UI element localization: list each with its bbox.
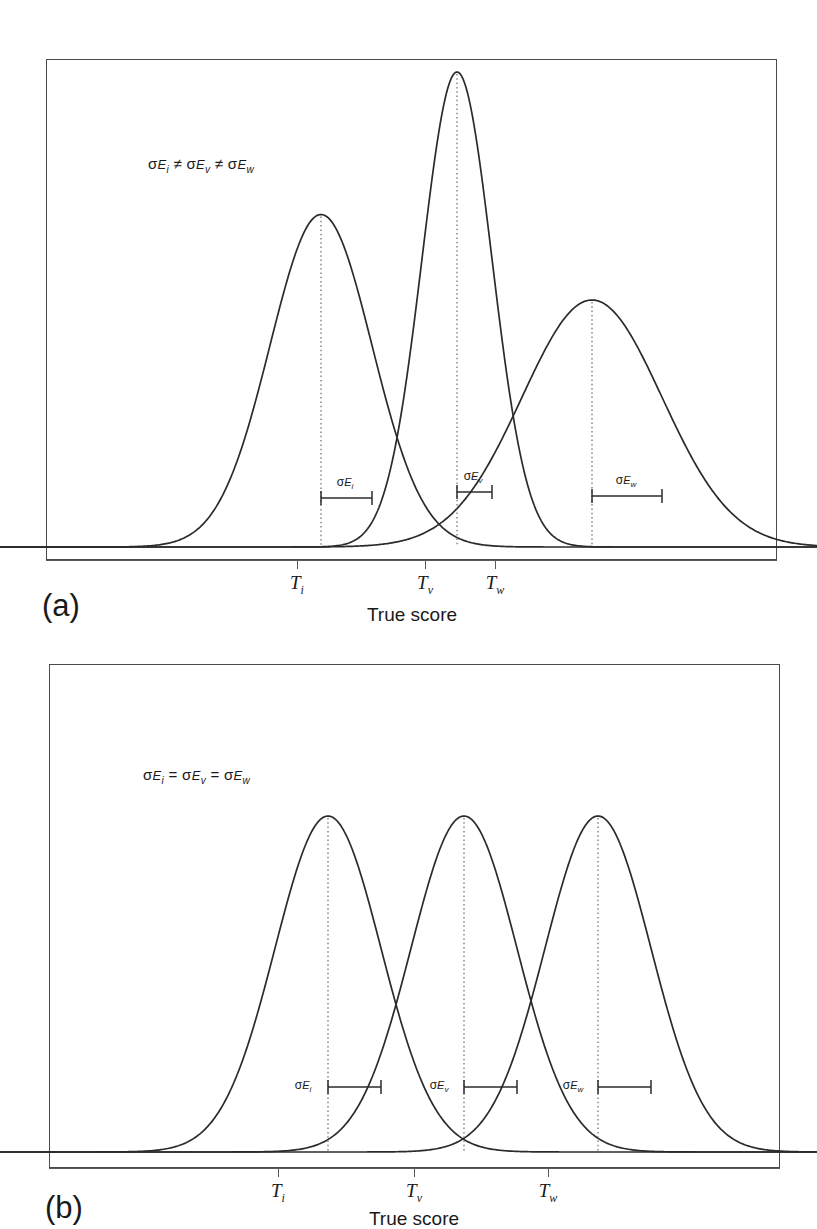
panel-a-sem-label-w: σEw [616,473,637,489]
panel-b-tick-i [278,1168,279,1177]
panel-b-tick-v [414,1168,415,1177]
panel-b-annotation: σEi = σEv = σEw [143,766,250,786]
panel-a-annotation: σEi ≠ σEv ≠ σEw [148,155,254,175]
panel-b-tick-label-w: Tw [539,1180,558,1206]
distribution-curve-w [0,300,817,547]
distribution-curve-w [0,816,817,1152]
distribution-curve-v [0,72,817,547]
panel-b-sem-label-v: σEv [430,1078,449,1094]
panel-b-axis-title: True score [369,1208,459,1229]
panel-b-tick-label-v: Tv [406,1180,422,1206]
panel-b-plot-frame [49,664,780,1168]
panel-b-tick-w [548,1168,549,1177]
sem-bracket-i [328,1080,381,1094]
panel-a-axis-title: True score [367,604,457,626]
panel-b-curves [50,665,781,1169]
panel-a-plot-frame [46,59,777,560]
distribution-curve-v [0,816,817,1152]
panel-a-tick-v [425,560,426,569]
panel-b-tick-label-i: Ti [271,1180,285,1206]
panel-a-sem-label-i: σEi [337,475,354,491]
distribution-curve-i [0,816,817,1152]
panel-b-sem-label-i: σEi [295,1078,312,1094]
panel-a-tick-label-v: Tv [417,572,433,598]
panel-a-tick-i [297,560,298,569]
panel-a-tick-w [495,560,496,569]
panel-b-label: (b) [45,1190,83,1226]
sem-bracket-w [592,489,662,503]
distribution-curve-i [0,215,817,547]
panel-a-label: (a) [42,588,80,624]
panel-b-sem-label-w: σEw [563,1078,584,1094]
panel-a-sem-label-v: σEv [464,469,483,485]
panel-a-tick-label-w: Tw [486,572,505,598]
sem-bracket-v [464,1080,517,1094]
sem-bracket-i [321,491,372,505]
sem-bracket-w [598,1080,651,1094]
panel-a-x-axis [46,560,777,561]
panel-a-curves [47,60,778,561]
panel-a-tick-label-i: Ti [290,572,304,598]
